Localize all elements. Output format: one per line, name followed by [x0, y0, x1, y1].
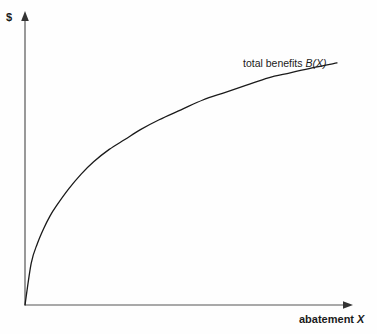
- x-axis-title-text: abatement: [299, 313, 354, 325]
- curve-annotation-label: total benefitsB(X): [243, 58, 327, 69]
- arrow-up-icon: [21, 11, 29, 21]
- curve-annotation-function: B(X): [303, 57, 327, 69]
- curve-annotation-text: total benefits: [243, 57, 303, 69]
- benefits-curve-figure: $ total benefitsB(X) abatement X: [0, 0, 377, 334]
- x-axis-title: abatement X: [299, 314, 364, 325]
- benefits-curve-line: [25, 63, 337, 305]
- y-axis-title: $: [6, 12, 12, 23]
- plot-canvas: [0, 0, 377, 334]
- arrow-right-icon: [343, 301, 353, 309]
- x-axis-title-variable: X: [357, 313, 364, 325]
